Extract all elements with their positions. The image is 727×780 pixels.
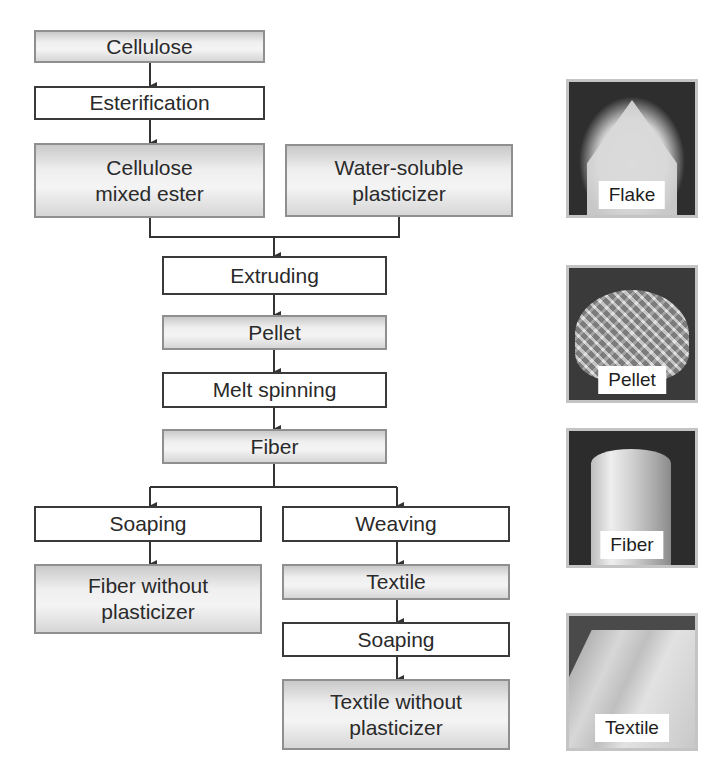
node-label: Cellulose (106, 34, 192, 60)
photo-pellet: Pellet (566, 265, 698, 403)
node-weaving: Weaving (282, 506, 510, 542)
node-label: Melt spinning (213, 377, 337, 403)
node-extruding: Extruding (162, 256, 387, 295)
node-cellulose-mixed-ester: Cellulose mixed ester (34, 143, 265, 218)
node-label: Fiber without plasticizer (88, 573, 208, 625)
node-label: Esterification (89, 90, 209, 116)
node-pellet: Pellet (162, 315, 387, 350)
photo-flake: Flake (566, 79, 698, 218)
merge-connector (150, 217, 399, 237)
photo-label: Pellet (598, 366, 666, 394)
node-soaping-right: Soaping (282, 622, 510, 657)
photo-label: Textile (595, 714, 669, 742)
node-soaping-left: Soaping (34, 506, 262, 542)
node-esterification: Esterification (34, 86, 265, 120)
node-label: Textile (366, 569, 426, 595)
photo-fiber: Fiber (566, 428, 698, 568)
node-label: Cellulose mixed ester (95, 155, 204, 207)
node-label: Textile without plasticizer (330, 689, 462, 741)
node-label: Fiber (251, 434, 299, 460)
node-label: Soaping (109, 511, 186, 537)
node-label: Extruding (230, 263, 319, 289)
node-label: Soaping (357, 627, 434, 653)
node-textile-without-plasticizer: Textile without plasticizer (282, 679, 510, 750)
node-cellulose: Cellulose (34, 30, 265, 63)
node-label: Pellet (248, 320, 301, 346)
node-textile: Textile (282, 564, 510, 600)
photo-label: Flake (599, 181, 665, 209)
node-label: Water-soluble plasticizer (335, 155, 464, 207)
photo-label: Fiber (600, 531, 663, 559)
node-fiber: Fiber (162, 429, 387, 464)
node-melt-spinning: Melt spinning (162, 372, 387, 408)
photo-textile: Textile (566, 613, 698, 751)
node-label: Weaving (355, 511, 436, 537)
node-fiber-without-plasticizer: Fiber without plasticizer (34, 564, 262, 634)
node-water-soluble-plasticizer: Water-soluble plasticizer (285, 144, 513, 217)
